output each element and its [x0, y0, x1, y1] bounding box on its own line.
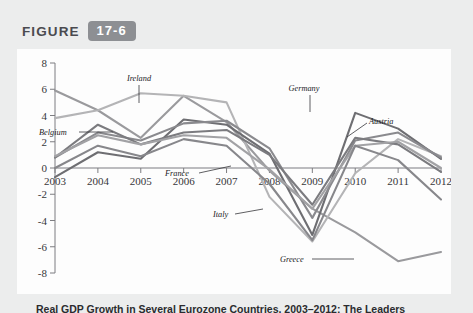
y-axis-tick-label: 4: [42, 110, 48, 122]
chart-axes: 86420-2-4-6-8200320042005200620072008200…: [38, 57, 451, 279]
series-label-france: France: [164, 169, 189, 178]
y-axis-tick-label: -6: [38, 241, 48, 253]
series-label-ireland: Ireland: [126, 74, 152, 83]
figure-panel: FIGURE 17-6 86420-2-4-6-8200320042005200…: [0, 0, 473, 313]
x-axis-tick-label: 2007: [216, 175, 239, 187]
series-label-greece: Greece: [280, 255, 304, 264]
y-axis-tick-label: 6: [42, 83, 48, 95]
y-axis-tick-label: 8: [42, 57, 48, 69]
leader-line-italy: [235, 209, 263, 214]
x-axis-tick-label: 2004: [87, 175, 110, 187]
x-axis-tick-label: 2012: [430, 175, 451, 187]
x-axis-tick-label: 2009: [301, 175, 324, 187]
series-line-austria: [55, 121, 441, 218]
x-axis-tick-label: 2005: [130, 175, 153, 187]
figure-caption: Real GDP Growth in Several Eurozone Coun…: [36, 303, 456, 313]
y-axis-tick-label: -8: [38, 267, 48, 279]
series-line-ireland: [55, 93, 441, 241]
series-label-belgium: Belgium: [39, 128, 67, 137]
figure-label: FIGURE: [22, 24, 80, 39]
y-axis-tick-label: 0: [42, 162, 48, 174]
figure-header: FIGURE 17-6: [22, 21, 136, 41]
x-axis-tick-label: 2011: [387, 175, 409, 187]
y-axis-tick-label: -2: [38, 188, 47, 200]
series-label-austria: Austria: [368, 117, 393, 126]
series-label-italy: Italy: [212, 210, 229, 219]
y-axis-tick-label: -4: [38, 215, 48, 227]
line-chart: 86420-2-4-6-8200320042005200620072008200…: [17, 49, 451, 294]
y-axis-tick-label: 2: [42, 136, 48, 148]
figure-number-badge: 17-6: [88, 21, 136, 41]
series-label-germany: Germany: [289, 84, 320, 93]
chart-plot-area: 86420-2-4-6-8200320042005200620072008200…: [17, 49, 451, 294]
